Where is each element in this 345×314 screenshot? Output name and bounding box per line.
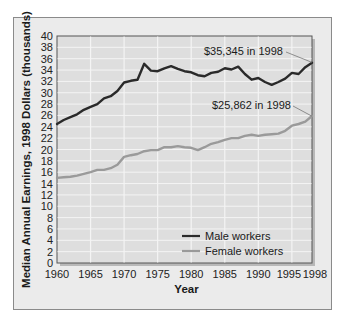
line-chart: 0246810121416182022242628303234363840 19…: [0, 0, 345, 314]
y-tick-label: 10: [41, 200, 53, 212]
y-tick-label: 40: [41, 30, 53, 42]
x-tick-label: 1985: [213, 268, 237, 280]
y-tick-label: 14: [41, 178, 53, 190]
legend-label: Female workers: [205, 245, 284, 257]
y-tick-label: 20: [41, 144, 53, 156]
y-tick-label: 16: [41, 166, 53, 178]
y-tick-label: 6: [47, 223, 53, 235]
y-tick-label: 32: [41, 75, 53, 87]
y-axis-ticks: 0246810121416182022242628303234363840: [41, 30, 53, 269]
x-axis-ticks: 196019651970197519801985199019951998: [45, 268, 327, 280]
x-tick-label: 1990: [246, 268, 270, 280]
y-tick-label: 4: [47, 234, 53, 246]
annotation-label: $25,862 in 1998: [212, 99, 291, 111]
legend-label: Male workers: [205, 230, 271, 242]
y-tick-label: 26: [41, 109, 53, 121]
x-tick-label: 1970: [112, 268, 136, 280]
y-tick-label: 36: [41, 53, 53, 65]
x-tick-label: 1998: [303, 268, 327, 280]
x-tick-label: 1980: [179, 268, 203, 280]
y-tick-label: 8: [47, 212, 53, 224]
y-tick-label: 34: [41, 64, 53, 76]
y-tick-label: 28: [41, 98, 53, 110]
y-axis-label: Median Annual Earnings, 1998 Dollars (th…: [20, 11, 32, 288]
y-tick-label: 2: [47, 246, 53, 258]
annotation-label: $35,345 in 1998: [204, 45, 283, 57]
x-tick-label: 1975: [145, 268, 169, 280]
x-axis-label: Year: [174, 283, 199, 295]
x-tick-label: 1995: [277, 268, 301, 280]
y-tick-label: 22: [41, 132, 53, 144]
y-tick-label: 12: [41, 189, 53, 201]
x-tick-label: 1965: [78, 268, 102, 280]
y-tick-label: 18: [41, 155, 53, 167]
y-tick-label: 24: [41, 121, 53, 133]
y-tick-label: 38: [41, 41, 53, 53]
y-tick-label: 30: [41, 87, 53, 99]
x-tick-label: 1960: [45, 268, 69, 280]
